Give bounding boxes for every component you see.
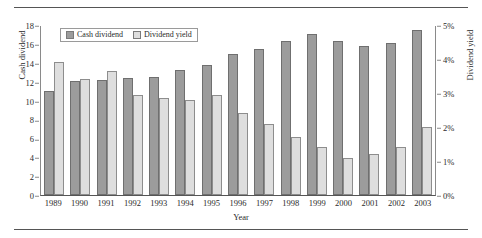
bar-cash-dividend [281, 41, 291, 195]
bar-dividend-yield [80, 79, 90, 195]
chart-container: Cash dividend Dividend yield Year 181614… [0, 0, 482, 238]
bar-dividend-yield [317, 147, 327, 195]
bar-group [225, 26, 251, 195]
x-axis-tick-label: 1992 [124, 199, 141, 208]
figure: Cash dividend Dividend yield Year 181614… [0, 0, 482, 238]
bar-group [304, 26, 330, 195]
bar-group [409, 26, 435, 195]
bar-group [172, 26, 198, 195]
bar-cash-dividend [254, 49, 264, 195]
bar-cash-dividend [202, 65, 212, 195]
bar-cash-dividend [359, 46, 369, 195]
bar-dividend-yield [264, 124, 274, 195]
bar-cash-dividend [70, 81, 80, 195]
plot-area [40, 26, 436, 196]
bar-group [41, 26, 67, 195]
bar-group [94, 26, 120, 195]
x-axis-tick-label: 1997 [256, 199, 273, 208]
y-axis-left-tick-label: 10 [12, 97, 34, 106]
bar-group [382, 26, 408, 195]
x-axis-tick-label: 1998 [282, 199, 299, 208]
y-axis-left-tick-label: 14 [12, 60, 34, 69]
bar-dividend-yield [422, 127, 432, 195]
bar-dividend-yield [54, 62, 64, 195]
y-axis-right-tick-label: 0% [443, 192, 469, 201]
legend-label-cash-dividend: Cash dividend [77, 31, 123, 39]
bar-cash-dividend [333, 41, 343, 195]
bar-dividend-yield [238, 113, 248, 195]
y-axis-right-tick-label: 5% [443, 22, 469, 31]
x-axis-tick-label: 1999 [309, 199, 326, 208]
bar-group [146, 26, 172, 195]
bar-cash-dividend [412, 30, 422, 195]
x-axis-tick-label: 2000 [335, 199, 352, 208]
bar-dividend-yield [212, 95, 222, 195]
bar-dividend-yield [185, 100, 195, 195]
bar-cash-dividend [44, 91, 54, 195]
x-axis-tick-label: 2001 [362, 199, 379, 208]
bar-group [356, 26, 382, 195]
y-axis-right-tick-label: 3% [443, 90, 469, 99]
bar-group [120, 26, 146, 195]
y-axis-left-tick-label: 4 [12, 154, 34, 163]
bar-group [330, 26, 356, 195]
bar-dividend-yield [159, 98, 169, 195]
x-axis-tick-label: 1995 [203, 199, 220, 208]
y-axis-right-tick-label: 4% [443, 56, 469, 65]
bar-dividend-yield [343, 158, 353, 195]
x-axis-tick-label: 1989 [45, 199, 62, 208]
x-axis-title: Year [0, 212, 482, 222]
bar-cash-dividend [228, 54, 238, 195]
y-axis-left-tick-label: 8 [12, 116, 34, 125]
bar-group [199, 26, 225, 195]
bar-dividend-yield [291, 137, 301, 195]
bar-cash-dividend [97, 80, 107, 195]
y-axis-left-tick-label: 16 [12, 41, 34, 50]
x-axis-tick-label: 1993 [150, 199, 167, 208]
legend-swatch-dividend-yield [133, 31, 141, 39]
bar-group [277, 26, 303, 195]
y-axis-left-tick-label: 12 [12, 78, 34, 87]
x-axis-tick-label: 1994 [177, 199, 194, 208]
x-axis-tick-label: 1996 [230, 199, 247, 208]
y-axis-left-tick-label: 2 [12, 173, 34, 182]
legend-item-cash-dividend: Cash dividend [66, 31, 123, 39]
bar-cash-dividend [123, 78, 133, 195]
y-axis-left-tick-label: 6 [12, 135, 34, 144]
bar-dividend-yield [107, 71, 117, 195]
y-axis-right-tick-label: 2% [443, 124, 469, 133]
bar-cash-dividend [307, 34, 317, 196]
y-axis-left-tick-label: 0 [12, 192, 34, 201]
bar-groups [41, 26, 435, 195]
y-axis-left-tick-label: 18 [12, 22, 34, 31]
legend-item-dividend-yield: Dividend yield [133, 31, 192, 39]
bar-cash-dividend [149, 77, 159, 195]
bar-dividend-yield [396, 147, 406, 195]
bar-cash-dividend [386, 43, 396, 195]
bar-cash-dividend [175, 70, 185, 195]
bar-dividend-yield [369, 154, 379, 195]
chart-legend: Cash dividend Dividend yield [60, 28, 198, 42]
x-axis-tick-label: 1990 [71, 199, 88, 208]
x-axis-tick-label: 1991 [98, 199, 115, 208]
x-axis-tick-label: 2002 [388, 199, 405, 208]
bar-dividend-yield [133, 95, 143, 195]
legend-label-dividend-yield: Dividend yield [144, 31, 192, 39]
bar-group [251, 26, 277, 195]
y-axis-right-tick-label: 1% [443, 158, 469, 167]
bar-group [67, 26, 93, 195]
x-axis-tick-label: 2003 [414, 199, 431, 208]
legend-swatch-cash-dividend [66, 31, 74, 39]
